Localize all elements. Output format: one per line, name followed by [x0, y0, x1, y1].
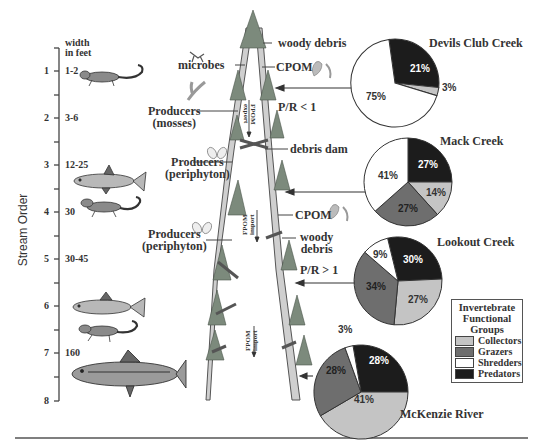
order-label-3: 3: [44, 160, 49, 170]
salamander-icon-2: [81, 197, 140, 217]
mckenzie-pct-collectors: 41%: [354, 395, 374, 405]
width-value-4: 30: [65, 207, 75, 217]
legend-label-collectors: Collectors: [478, 335, 521, 346]
fpom-import-1-line2: import: [249, 214, 256, 235]
label-cpom-mid: CPOM: [295, 209, 332, 221]
salmon-icon: [72, 350, 186, 397]
legend-item-collectors: Collectors: [455, 335, 522, 346]
lookout-pct-collectors: 27%: [408, 295, 428, 305]
mack-pct-grazers: 27%: [398, 204, 418, 214]
producers-mosses-line2: (mosses): [148, 117, 200, 129]
producers-periphyton-1-line2: (periphyton): [165, 168, 230, 180]
legend-item-shredders: Shredders: [455, 357, 522, 368]
producers-periphyton-2-line2: (periphyton): [142, 240, 207, 252]
label-fpom-import-1: FPOM import: [242, 214, 256, 235]
label-pr-less-than-1: P/R < 1: [278, 101, 316, 113]
pie-title-devils-club-creek: Devils Club Creek: [429, 37, 523, 49]
label-producers-periphyton-2: Producers (periphyton): [142, 228, 207, 252]
mack-pct-shredders: 41%: [378, 171, 398, 181]
swatch-shredders: [455, 358, 474, 368]
devils-pct-collectors: 3%: [442, 83, 456, 93]
woody-debris-mid-line2: debris: [300, 243, 333, 255]
salamander-icon-3: [79, 321, 137, 342]
fpom-export-line2: export: [242, 104, 249, 125]
moss-icon: [188, 82, 205, 100]
swatch-collectors: [455, 336, 474, 346]
width-value-7: 160: [65, 348, 80, 358]
order-label-8: 8: [44, 396, 49, 406]
fpom-export-line1: FPOM: [249, 104, 256, 125]
legend-item-predators: Predators: [455, 368, 522, 379]
pie-title-mckenzie-river: McKenzie River: [400, 408, 484, 420]
swatch-predators: [455, 369, 474, 379]
mckenzie-pct-predators: 28%: [369, 356, 389, 366]
swatch-grazers: [455, 347, 474, 357]
label-fpom-import-2: FPOM import: [245, 330, 259, 351]
legend-title-line3: Groups: [452, 324, 522, 335]
legend-invertebrate-groups: Invertebrate Functional Groups Collector…: [451, 299, 523, 383]
width-header-line2: in feet: [65, 48, 91, 58]
leaf-icon-cpom-top: [312, 61, 330, 78]
salamander-icon-1: [80, 65, 143, 86]
label-microbes: microbes: [178, 59, 224, 71]
width-value-3: 12-25: [65, 160, 88, 170]
legend-item-grazers: Grazers: [455, 346, 522, 357]
legend-label-grazers: Grazers: [478, 346, 512, 357]
trout-icon-2: [73, 292, 145, 317]
order-label-5: 5: [44, 254, 49, 264]
legend-title-line1: Invertebrate: [452, 302, 522, 313]
lookout-pct-shredders: 9%: [373, 250, 387, 260]
legend-title-line2: Functional: [452, 313, 522, 324]
width-header: width in feet: [65, 38, 91, 58]
label-pr-greater-than-1: P/R > 1: [300, 264, 338, 276]
width-value-2: 3-6: [65, 113, 78, 123]
label-cpom-top: CPOM: [276, 61, 313, 73]
pie-title-mack-creek: Mack Creek: [440, 135, 503, 147]
devils-pct-shredders: 75%: [366, 92, 386, 102]
label-fpom-export: FPOM export: [242, 104, 256, 125]
devils-pct-predators: 21%: [410, 64, 430, 74]
mack-pct-collectors: 14%: [426, 188, 446, 198]
axis-title-stream-order: Stream Order: [16, 185, 30, 275]
mckenzie-pct-grazers: 28%: [326, 366, 346, 376]
legend-label-predators: Predators: [478, 368, 520, 379]
label-producers-mosses: Producers (mosses): [148, 105, 200, 129]
width-value-1: 1-2: [65, 66, 78, 76]
order-label-7: 7: [44, 348, 49, 358]
label-woody-debris-top: woody debris: [278, 37, 346, 49]
label-woody-debris-mid: woody debris: [300, 231, 333, 255]
pie-devils-club-creek: [346, 36, 443, 131]
leaf-icon-cpom-mid: [329, 204, 347, 221]
label-debris-dam: debris dam: [290, 143, 348, 155]
legend-title: Invertebrate Functional Groups: [452, 302, 522, 335]
mack-pct-predators: 27%: [418, 160, 438, 170]
legend-label-shredders: Shredders: [478, 357, 522, 368]
order-label-4: 4: [44, 207, 49, 217]
pie-mckenzie-river: [314, 345, 408, 439]
lookout-pct-grazers: 34%: [366, 282, 386, 292]
fpom-import-2-line2: import: [252, 330, 259, 351]
pie-title-lookout-creek: Lookout Creek: [437, 236, 514, 248]
order-label-6: 6: [44, 301, 49, 311]
lookout-pct-predators: 30%: [403, 255, 423, 265]
mckenzie-pct-shredders: 3%: [338, 325, 352, 335]
order-label-2: 2: [44, 113, 49, 123]
label-producers-periphyton-1: Producers (periphyton): [165, 156, 230, 180]
stream-order-axis: [54, 48, 59, 401]
order-label-1: 1: [44, 66, 49, 76]
width-value-5: 30-45: [65, 254, 88, 264]
